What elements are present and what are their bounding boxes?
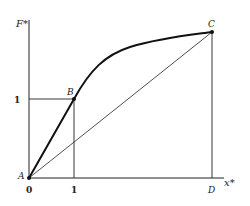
diagram-canvas: F* x* 0 1 1 A B C D (0, 0, 250, 206)
point-a-label: A (17, 171, 25, 181)
point-c-dot (210, 30, 214, 34)
y-tick-label: 1 (14, 95, 20, 105)
y-axis-label: F* (15, 18, 28, 29)
point-a-dot (27, 176, 31, 180)
point-c-label: C (208, 19, 215, 29)
a-to-c-diagonal (29, 32, 212, 178)
point-b-dot (72, 97, 76, 101)
point-d-label: D (207, 185, 215, 195)
x-tick-label: 1 (71, 185, 77, 195)
x-axis-label: x* (224, 177, 235, 188)
point-b-label: B (66, 87, 74, 97)
origin-label: 0 (26, 185, 32, 195)
